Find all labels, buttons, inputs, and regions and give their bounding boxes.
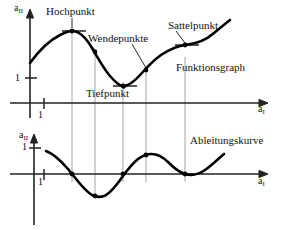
connector-lines [72,30,185,196]
bottom-x-axis-label: aI [258,176,265,186]
top-y-tick-label-1: 1 [15,73,20,83]
top-y-axis-label-sub: II [18,7,23,15]
label-wendepunkte: Wendepunkte [88,33,148,44]
top-x-tick-label-1: 1 [38,110,43,120]
derivative-maximum [144,153,149,158]
label-tiefpunkt: Tiefpunkt [86,88,129,99]
derivative-zero-at-tiefpunkt [121,172,126,177]
bottom-x-tick-label-1: 1 [38,177,43,187]
bottom-y-axis-arrow [30,134,37,143]
derivative-minimum [93,194,98,199]
top-x-axis-label: aI [258,104,265,114]
label-ableitungskurve: Ableitungskurve [190,135,263,146]
label-hochpunkt: Hochpunkt [46,6,95,17]
derivative-zero-at-hochpunkt [70,172,75,177]
top-y-axis-label: aII [14,3,23,13]
point-wendepunkt-1 [93,50,98,55]
top-y-axis-arrow [26,9,33,18]
bottom-y-tick-label-1: 1 [22,142,27,152]
label-sattelpunkt: Sattelpunkt [168,20,218,31]
bottom-x-axis-label-sub: I [262,180,264,188]
bottom-panel-axes [10,134,268,225]
function-and-derivative-figure: Hochpunkt Wendepunkte Sattelpunkt Funkti… [0,0,286,230]
bottom-y-axis-label: aII [19,130,28,140]
point-wendepunkt-2 [144,68,149,73]
leader-wendepunkt-2 [132,44,146,68]
derivative-zero-at-sattelpunkt [183,172,188,177]
top-x-axis-label-sub: I [262,108,264,116]
leader-sattelpunkt [176,31,185,43]
label-funktionsgraph: Funktionsgraph [176,62,245,73]
